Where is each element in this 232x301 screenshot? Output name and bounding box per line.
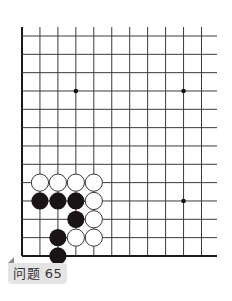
white-stone[interactable] xyxy=(31,174,48,191)
white-stone[interactable] xyxy=(85,192,102,209)
star-point xyxy=(181,89,186,94)
black-stone[interactable] xyxy=(49,247,66,264)
white-stone[interactable] xyxy=(67,229,84,246)
go-board xyxy=(0,0,232,301)
star-point xyxy=(181,199,186,204)
white-stone[interactable] xyxy=(67,174,84,191)
black-stone[interactable] xyxy=(49,192,66,209)
black-stone[interactable] xyxy=(31,192,48,209)
star-point xyxy=(74,89,79,94)
white-stone[interactable] xyxy=(85,211,102,228)
black-stone[interactable] xyxy=(67,211,84,228)
white-stone[interactable] xyxy=(85,229,102,246)
black-stone[interactable] xyxy=(49,229,66,246)
board-grid xyxy=(22,27,217,256)
white-stone[interactable] xyxy=(49,174,66,191)
black-stone[interactable] xyxy=(67,192,84,209)
problem-caption: 问题 65 xyxy=(8,263,67,284)
white-stone[interactable] xyxy=(85,174,102,191)
